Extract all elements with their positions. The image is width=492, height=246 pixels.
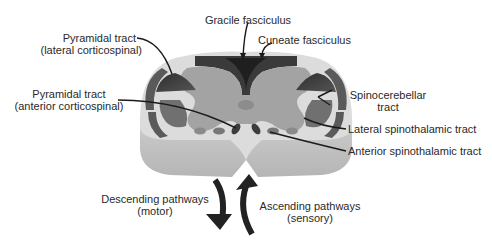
label-ascending-line2: (sensory) [258,212,362,224]
label-descending-line2: (motor) [100,205,210,217]
spinal-cord-diagram: Gracile fasciculus Cuneate fasciculus Py… [0,0,492,246]
label-pyramidal-anterior-line1: Pyramidal tract [14,88,124,100]
label-anterior-spinothalamic: Anterior spinothalamic tract [348,145,481,157]
label-cuneate-fasciculus: Cuneate fasciculus [258,34,351,46]
label-descending-line1: Descending pathways [100,193,210,205]
ascending-arrow-icon [236,174,258,234]
label-pyramidal-lateral-line1: Pyramidal tract [40,32,136,44]
label-lateral-spinothalamic: Lateral spinothalamic tract [348,123,476,135]
label-spinocerebellar-line1: Spinocerebellar [342,89,434,101]
label-pyramidal-anterior-line2: (anterior corticospinal) [14,100,124,112]
label-ascending-line1: Ascending pathways [258,200,362,212]
label-pyramidal-lateral-line2: (lateral corticospinal) [20,44,142,56]
label-spinocerebellar-line2: tract [342,101,434,113]
label-gracile-fasciculus: Gracile fasciculus [198,14,298,26]
